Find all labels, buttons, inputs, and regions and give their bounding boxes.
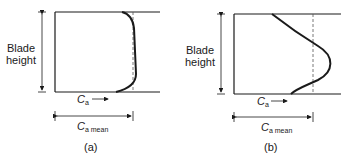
- velocity-label-a: Ca: [77, 93, 89, 106]
- subscript: a mean: [269, 127, 292, 134]
- panel-b: [217, 14, 341, 122]
- caption-a: (a): [84, 141, 97, 153]
- label-line2: height: [183, 56, 217, 68]
- subscript: a: [265, 101, 269, 108]
- label-line1: Blade: [183, 44, 217, 56]
- symbol: C: [77, 120, 85, 132]
- caption-b: (b): [264, 141, 277, 153]
- label-line2: height: [4, 54, 38, 66]
- velocity-profile-curve: [272, 14, 330, 94]
- subscript: a mean: [85, 126, 108, 133]
- symbol: C: [77, 93, 85, 105]
- symbol: C: [257, 95, 265, 107]
- mean-velocity-label-b: Ca mean: [261, 121, 292, 134]
- symbol: C: [261, 121, 269, 133]
- velocity-label-b: Ca: [257, 95, 269, 108]
- subscript: a: [85, 99, 89, 106]
- blade-height-label-a: Blade height: [4, 42, 38, 66]
- label-line1: Blade: [4, 42, 38, 54]
- diagram-canvas: [0, 0, 359, 163]
- mean-velocity-label-a: Ca mean: [77, 120, 108, 133]
- panel-a: [38, 12, 160, 121]
- blade-height-label-b: Blade height: [183, 44, 217, 68]
